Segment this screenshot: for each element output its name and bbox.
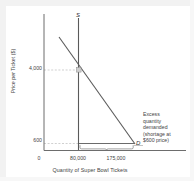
chart-plot-area	[0, 0, 194, 181]
annotation-line-1: Excess	[143, 111, 191, 118]
x-axis-title: Quantity of Super Bowl Tickets	[30, 167, 150, 173]
annotation-line-4: (shortage at	[143, 131, 191, 138]
x-tick-label-origin: 0	[34, 155, 44, 161]
annotation-line-3: demanded	[143, 124, 191, 131]
demand-curve-label: D	[136, 140, 140, 146]
excess-quantity-annotation: Excess quantity demanded (shortage at $6…	[143, 111, 191, 144]
x-tick-label-175000: 175,000	[96, 155, 136, 161]
y-tick-label-600: 600	[18, 137, 42, 143]
x-tick-label-80000: 80,000	[58, 155, 98, 161]
annotation-line-5: $600 price)	[143, 137, 191, 144]
y-axis-title: Price per Ticket ($)	[10, 34, 16, 108]
chart-figure: Price per Ticket ($) Quantity of Super B…	[0, 0, 194, 181]
equilibrium-marker	[77, 68, 82, 73]
supply-curve-label: S	[76, 12, 80, 18]
y-tick-label-4000: 4,000	[18, 65, 42, 71]
shortage-brace	[80, 145, 133, 150]
demand-curve	[59, 37, 135, 144]
annotation-line-2: quantity	[143, 118, 191, 125]
